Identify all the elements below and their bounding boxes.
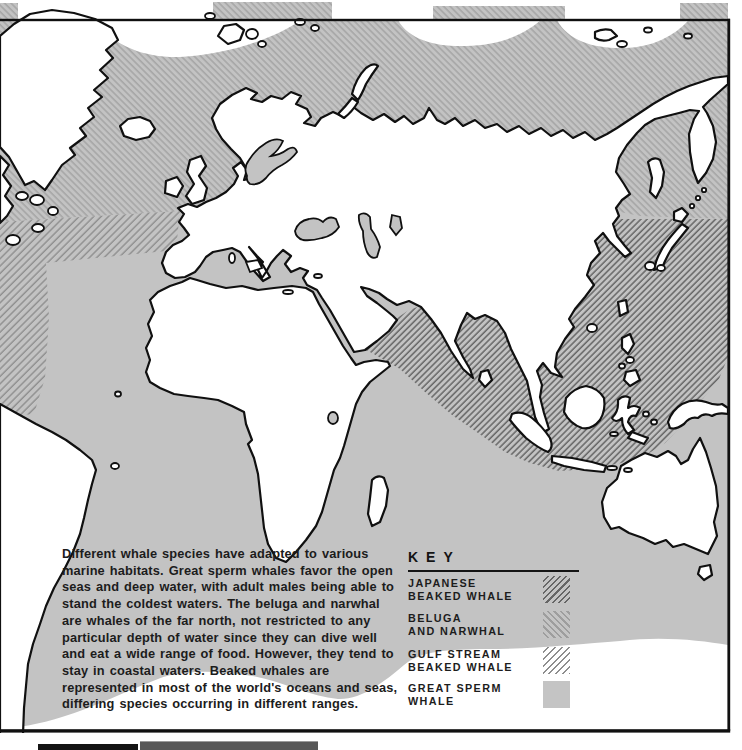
description-text: Different whale species have adapted to … xyxy=(62,546,404,713)
landmass-borneo xyxy=(564,386,605,428)
frame-bottom xyxy=(0,729,730,732)
map-key: KEY JAPANESE BEAKED WHALE BELUGA AND NAR… xyxy=(407,549,607,719)
key-entry-label: GULF STREAM BEAKED WHALE xyxy=(408,648,540,673)
key-swatch-gulf-stream-hatch xyxy=(543,647,570,674)
key-entry-label: GREAT SPERM WHALE xyxy=(408,682,540,707)
landmass-taiwan xyxy=(618,300,628,316)
whale-distribution-map-page: Different whale species have adapted to … xyxy=(0,0,742,750)
key-swatch-solid-gray xyxy=(543,681,570,708)
lake-victoria xyxy=(328,412,338,424)
key-entry-beluga-narwhal: BELUGA AND NARWHAL xyxy=(408,612,607,637)
key-title: KEY xyxy=(408,549,461,565)
key-entry-label: BELUGA AND NARWHAL xyxy=(408,612,540,637)
key-swatch-beluga-hatch xyxy=(543,611,570,638)
frame-right xyxy=(727,19,730,731)
key-entry-japanese-beaked-whale: JAPANESE BEAKED WHALE xyxy=(408,577,607,602)
cropped-element-bottom-right xyxy=(140,741,318,750)
frame-top xyxy=(0,19,730,21)
cropped-element-bottom-left xyxy=(38,744,138,750)
page-margin-right xyxy=(730,0,742,750)
key-entry-great-sperm-whale: GREAT SPERM WHALE xyxy=(408,682,607,707)
key-entry-gulf-stream-beaked-whale: GULF STREAM BEAKED WHALE xyxy=(408,648,607,673)
key-title-underline xyxy=(408,570,579,572)
key-entry-label: JAPANESE BEAKED WHALE xyxy=(408,577,540,602)
landmass-iceland xyxy=(120,117,155,140)
key-swatch-japanese-hatch xyxy=(543,576,570,603)
